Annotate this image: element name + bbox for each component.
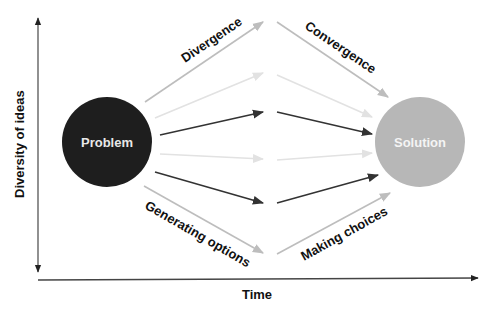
arrow-conv-4 [277, 153, 372, 160]
solution-node: Solution [375, 97, 465, 187]
problem-node: Problem [62, 97, 152, 187]
arrow-conv-5 [277, 175, 378, 203]
arrow-div-2 [155, 73, 263, 118]
y-axis-label: Diversity of ideas [12, 90, 27, 198]
arrow-conv-3 [277, 112, 372, 134]
solution-label: Solution [394, 135, 446, 150]
x-axis-label: Time [242, 287, 272, 302]
divergence-convergence-diagram: Problem Solution Divergence Convergence … [0, 0, 490, 313]
arrow-div-3 [160, 112, 263, 135]
arrow-div-1 [145, 22, 263, 102]
arrow-div-4 [160, 154, 263, 159]
arrow-div-5 [155, 172, 263, 203]
arrow-conv-2 [277, 75, 372, 117]
problem-label: Problem [81, 135, 133, 150]
generating-options-label: Generating options [143, 198, 254, 271]
x-axis [38, 278, 478, 280]
making-choices-label: Making choices [298, 204, 390, 264]
